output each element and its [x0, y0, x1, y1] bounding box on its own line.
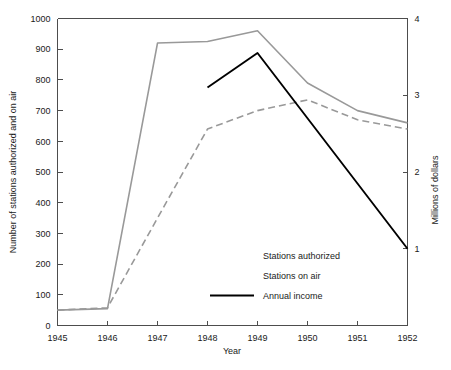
y2-tick-label: 4 [415, 14, 420, 24]
x-axis-title: Year [223, 346, 241, 356]
right-axis-ticks: 1234 [403, 14, 420, 254]
x-tick-label: 1951 [347, 333, 367, 343]
legend-label-stations-on-air: Stations on air [263, 271, 321, 281]
y2-axis-title: Millions of dollars [430, 155, 440, 225]
x-tick-label: 1948 [197, 333, 217, 343]
x-tick-label: 1952 [397, 333, 417, 343]
chart-legend: Stations authorizedStations on airAnnual… [210, 251, 340, 301]
y-tick-label: 200 [35, 259, 50, 269]
x-tick-label: 1945 [47, 333, 67, 343]
x-tick-label: 1950 [297, 333, 317, 343]
y-tick-label: 800 [35, 75, 50, 85]
y2-tick-label: 1 [415, 244, 420, 254]
y2-tick-label: 2 [415, 167, 420, 177]
series-line-stations-authorized [58, 31, 408, 310]
y-tick-label: 600 [35, 137, 50, 147]
x-tick-label: 1949 [247, 333, 267, 343]
y-axis-title: Number of stations authorized and on air [8, 91, 18, 254]
y-tick-label: 0 [45, 321, 50, 331]
y-tick-label: 300 [35, 229, 50, 239]
legend-label-annual-income: Annual income [263, 291, 323, 301]
y-tick-label: 900 [35, 44, 50, 54]
x-tick-label: 1946 [97, 333, 117, 343]
y-tick-label: 700 [35, 106, 50, 116]
y-tick-label: 100 [35, 290, 50, 300]
y2-tick-label: 3 [415, 90, 420, 100]
x-tick-label: 1947 [147, 333, 167, 343]
line-chart: 01002003004005006007008009001000 1234 19… [0, 0, 451, 370]
chart-figure: 01002003004005006007008009001000 1234 19… [0, 0, 451, 370]
series-line-stations-on-air [58, 100, 408, 310]
legend-label-stations-authorized: Stations authorized [263, 251, 340, 261]
axes-group [58, 19, 408, 326]
data-series-group [58, 31, 408, 310]
y-tick-label: 1000 [30, 14, 50, 24]
x-axis-ticks: 19451946194719481949195019511952 [47, 321, 417, 343]
y-tick-label: 400 [35, 198, 50, 208]
y-tick-label: 500 [35, 167, 50, 177]
